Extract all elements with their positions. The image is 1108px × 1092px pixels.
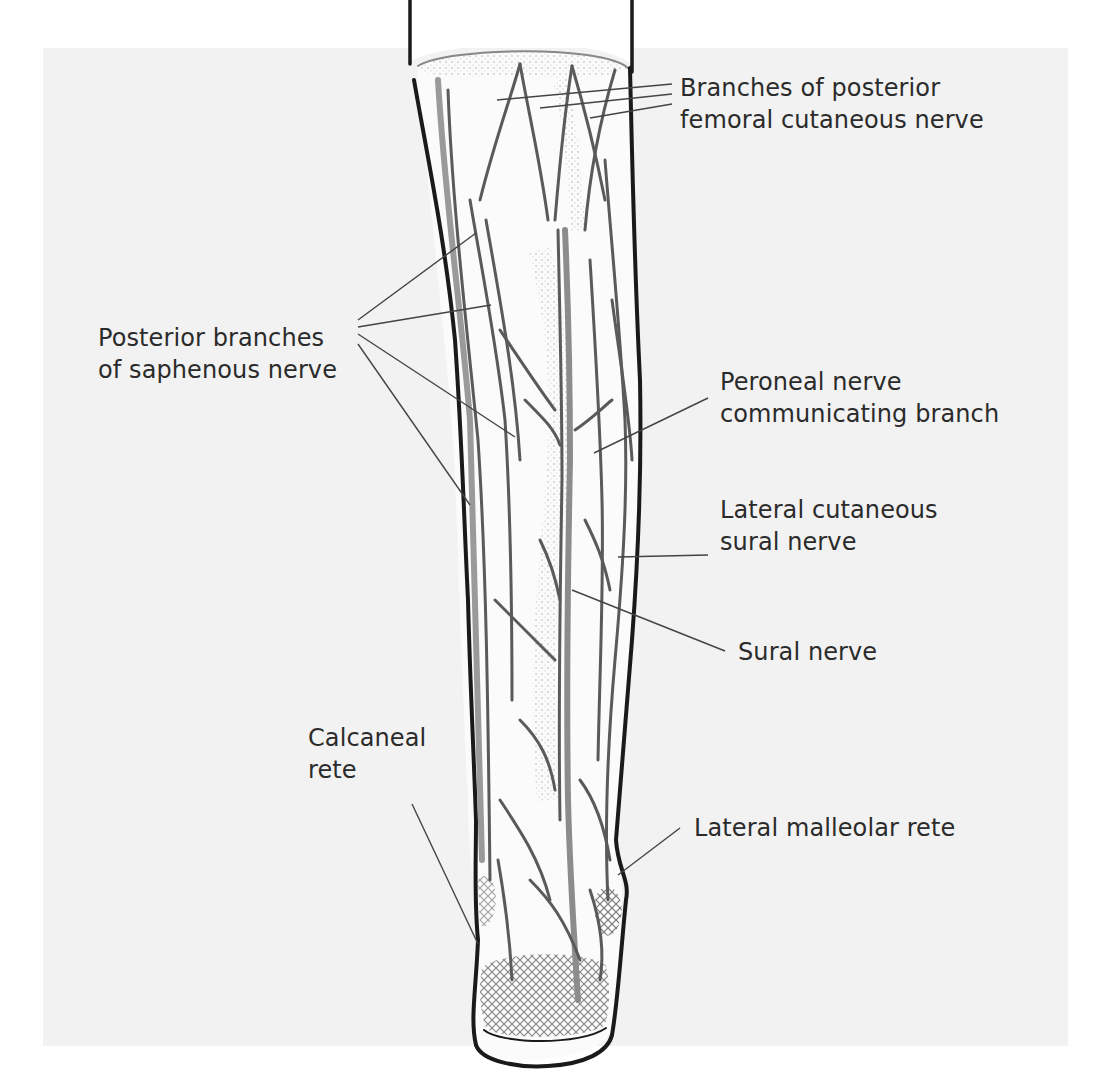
label-peroneal-nerve-communicating-branch: Peroneal nerve communicating branch: [720, 366, 999, 430]
label-line: femoral cutaneous nerve: [680, 104, 984, 136]
label-line: rete: [308, 754, 426, 786]
label-line: Sural nerve: [738, 636, 877, 668]
label-line: Branches of posterior: [680, 72, 984, 104]
label-line: sural nerve: [720, 526, 938, 558]
label-line: of saphenous nerve: [98, 354, 337, 386]
label-lateral-malleolar-rete: Lateral malleolar rete: [694, 812, 955, 844]
label-sural-nerve: Sural nerve: [738, 636, 877, 668]
label-line: Lateral malleolar rete: [694, 812, 955, 844]
label-line: communicating branch: [720, 398, 999, 430]
label-line: Lateral cutaneous: [720, 494, 938, 526]
label-posterior-branches-saphenous-nerve: Posterior branches of saphenous nerve: [98, 322, 337, 386]
leg-illustration: [0, 0, 1108, 1092]
label-line: Peroneal nerve: [720, 366, 999, 398]
label-calcaneal-rete: Calcaneal rete: [308, 722, 426, 786]
label-posterior-femoral-cutaneous-nerve: Branches of posterior femoral cutaneous …: [680, 72, 984, 136]
label-line: Calcaneal: [308, 722, 426, 754]
label-line: Posterior branches: [98, 322, 337, 354]
label-lateral-cutaneous-sural-nerve: Lateral cutaneous sural nerve: [720, 494, 938, 558]
